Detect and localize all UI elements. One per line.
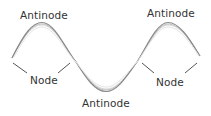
antinode-label-bottom: Antinode (82, 97, 130, 109)
node-left-leader-a (13, 63, 27, 73)
node-right-leader-a (142, 63, 154, 73)
node-label-right: Node (156, 76, 184, 88)
node-label-left: Node (30, 74, 58, 86)
node-left-leader-b (58, 63, 70, 73)
node-right-leader-b (185, 63, 197, 73)
node-leader-lines (13, 63, 197, 73)
antinode-label-right: Antinode (147, 7, 195, 19)
antinode-label-left: Antinode (20, 9, 68, 21)
